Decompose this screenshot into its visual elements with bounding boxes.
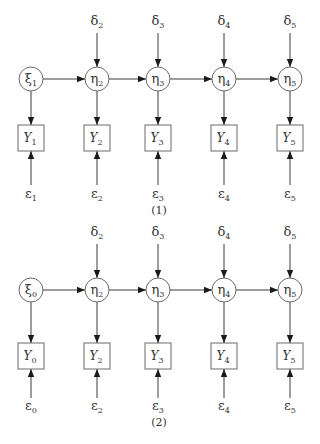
latent-symbol: η [152, 71, 160, 86]
observed-node-y2: Y2 [84, 125, 110, 151]
observed-node-y3: Y3 [145, 343, 171, 369]
observed-node-y5: Y5 [277, 125, 303, 151]
error-label-0: ε0 [25, 398, 37, 415]
latent-node-eta4: η4 [212, 278, 236, 302]
error-label-5: ε5 [284, 186, 296, 203]
latent-node-eta3: η3 [146, 67, 170, 91]
observed-node-y3: Y3 [145, 125, 171, 151]
latent-symbol: η [91, 71, 99, 86]
latent-symbol: η [284, 71, 292, 86]
latent-node-eta2: η2 [85, 278, 109, 302]
observed-node-y4: Y4 [211, 343, 237, 369]
disturbance-label-4: δ4 [218, 13, 231, 30]
error-label-2: ε2 [91, 398, 103, 415]
latent-subscript: 4 [225, 79, 230, 88]
latent-subscript: 1 [32, 79, 37, 88]
latent-node-eta4: η4 [212, 67, 236, 91]
error-label-1: ε1 [25, 186, 37, 203]
observed-node-y1: Y1 [18, 125, 44, 151]
disturbance-label-5: δ5 [284, 13, 297, 30]
observed-node-y0: Y0 [18, 343, 44, 369]
error-label-3: ε3 [152, 186, 164, 203]
error-label-3: ε3 [152, 398, 164, 415]
latent-node-eta5: η5 [278, 67, 302, 91]
observed-node-y4: Y4 [211, 125, 237, 151]
latent-node-xi1: ξ1 [19, 67, 43, 91]
latent-node-eta5: η5 [278, 278, 302, 302]
diagram-caption-1: (1) [151, 204, 167, 217]
diagram-1: ξ1 η2 η3 η4 η5 δ2 δ3 δ4 δ5 Y1 Y2 [18, 13, 303, 217]
latent-node-eta2: η2 [85, 67, 109, 91]
error-label-4: ε4 [218, 186, 230, 203]
error-label-4: ε4 [218, 398, 230, 415]
diagram-2: ξ0 η2 η3 η4 η5 δ2 δ3 δ4 δ5 Y0 Y2 [18, 224, 303, 429]
latent-subscript: 3 [159, 79, 164, 88]
disturbance-label-2: δ2 [91, 13, 104, 30]
disturbance-label-4: δ4 [218, 224, 231, 241]
disturbance-label-3: δ3 [152, 224, 165, 241]
observed-node-y5: Y5 [277, 343, 303, 369]
disturbance-label-3: δ3 [152, 13, 165, 30]
error-label-5: ε5 [284, 398, 296, 415]
latent-symbol: η [218, 71, 226, 86]
latent-node-xi0: ξ0 [19, 278, 43, 302]
latent-subscript: 2 [98, 79, 103, 88]
latent-node-eta3: η3 [146, 278, 170, 302]
latent-symbol: ξ [25, 71, 32, 86]
disturbance-label-5: δ5 [284, 224, 297, 241]
path-diagram-canvas: ξ1 η2 η3 η4 η5 δ2 δ3 δ4 δ5 Y1 Y2 [0, 0, 320, 444]
disturbance-label-2: δ2 [91, 224, 104, 241]
observed-node-y2: Y2 [84, 343, 110, 369]
path-diagrams-svg: ξ1 η2 η3 η4 η5 δ2 δ3 δ4 δ5 Y1 Y2 [0, 0, 320, 444]
diagram-caption-2: (2) [151, 416, 167, 429]
error-label-2: ε2 [91, 186, 103, 203]
latent-subscript: 5 [291, 79, 296, 88]
